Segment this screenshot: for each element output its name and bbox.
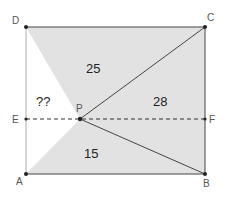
point-a <box>24 172 28 176</box>
label-b: B <box>203 178 210 189</box>
label-f: F <box>209 114 215 125</box>
area-cpb: 28 <box>153 94 167 109</box>
label-e: E <box>12 114 19 125</box>
geometry-diagram: D C A B E F P 25 28 15 ?? <box>0 0 226 200</box>
point-c <box>203 25 207 29</box>
area-apb: 15 <box>84 146 98 161</box>
label-a: A <box>16 176 23 187</box>
point-p <box>78 117 82 121</box>
point-f <box>203 117 206 120</box>
label-d: D <box>12 15 19 26</box>
point-d <box>24 25 28 29</box>
point-b <box>203 172 207 176</box>
label-c: C <box>207 12 214 23</box>
label-p: P <box>76 103 83 114</box>
area-apd-unknown: ?? <box>36 94 50 109</box>
point-e <box>24 117 27 120</box>
area-dpc: 25 <box>86 61 100 76</box>
